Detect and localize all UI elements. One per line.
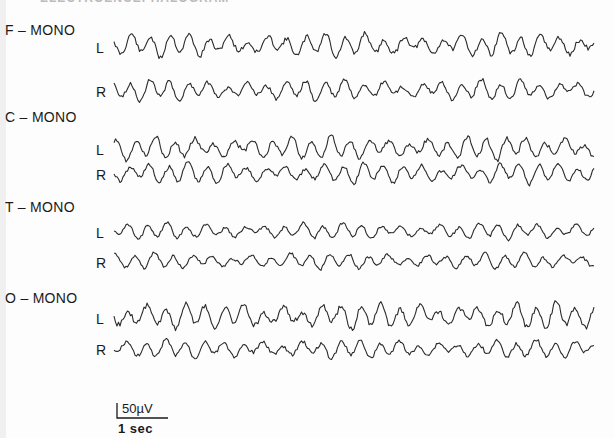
eeg-trace-o-r xyxy=(114,338,594,359)
eeg-trace-o-l xyxy=(114,301,594,331)
eeg-trace-f-r xyxy=(114,79,594,103)
eeg-trace-t-l xyxy=(114,222,594,241)
calibration-time: 1 sec xyxy=(118,421,153,436)
calibration-amplitude: 50µV xyxy=(122,401,153,416)
trace-group xyxy=(114,32,594,360)
eeg-traces xyxy=(0,0,614,438)
eeg-trace-c-l xyxy=(114,135,594,162)
eeg-trace-t-r xyxy=(114,252,594,270)
eeg-trace-c-r xyxy=(114,162,594,186)
eeg-trace-f-l xyxy=(114,32,594,59)
